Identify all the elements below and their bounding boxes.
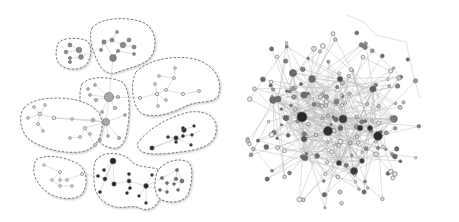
network-node	[286, 134, 290, 138]
network-node	[393, 127, 397, 131]
network-node	[348, 92, 351, 95]
community-hulls	[21, 19, 220, 210]
hull-right-lower-dark	[138, 112, 217, 154]
network-node	[366, 187, 368, 189]
network-node	[357, 125, 363, 131]
network-node	[340, 94, 343, 97]
network-node	[371, 120, 374, 123]
network-node	[370, 86, 376, 92]
network-node	[320, 43, 325, 48]
network-node	[327, 60, 330, 63]
network-node	[391, 176, 395, 180]
network-node	[394, 102, 397, 105]
network-node	[321, 117, 324, 120]
network-node	[302, 155, 308, 161]
network-node	[338, 72, 341, 75]
network-node	[338, 126, 343, 131]
network-node	[381, 197, 385, 201]
network-node	[349, 68, 353, 72]
network-node	[374, 132, 383, 141]
right-hairball-network	[246, 15, 421, 209]
network-node	[265, 177, 269, 181]
network-node	[271, 169, 274, 172]
network-node	[336, 85, 339, 88]
network-node	[285, 90, 288, 93]
network-node	[360, 159, 365, 164]
network-node	[283, 175, 287, 179]
network-node	[246, 139, 250, 143]
network-node	[285, 45, 288, 48]
network-node	[289, 69, 296, 76]
network-node	[320, 104, 323, 107]
network-node	[374, 152, 379, 157]
network-node	[348, 141, 352, 145]
hull-bottom-right	[155, 160, 192, 202]
network-node	[338, 190, 342, 194]
network-node	[391, 116, 398, 123]
network-node	[270, 47, 274, 51]
network-node	[325, 161, 328, 164]
network-node	[362, 190, 366, 194]
network-node	[309, 76, 316, 83]
network-node	[322, 180, 325, 183]
network-node	[324, 206, 326, 208]
network-node	[336, 175, 340, 179]
network-node	[402, 101, 405, 104]
network-node	[417, 125, 421, 129]
network-node	[358, 188, 361, 191]
network-node	[327, 141, 330, 144]
network-node	[276, 146, 280, 150]
network-node	[280, 108, 283, 111]
hull-top-left-small	[56, 38, 91, 69]
network-node	[276, 137, 279, 140]
network-node	[252, 87, 256, 91]
hull-right-upper	[133, 58, 220, 116]
network-node	[307, 57, 310, 60]
network-node	[301, 92, 307, 98]
network-node	[264, 145, 269, 150]
network-node	[340, 104, 343, 107]
network-node	[315, 154, 320, 159]
network-node	[316, 103, 319, 106]
network-node	[260, 77, 265, 82]
network-node	[333, 38, 337, 42]
network-node	[336, 160, 341, 165]
network-node	[394, 147, 399, 152]
network-node	[361, 151, 364, 154]
network-node	[361, 55, 365, 59]
network-node	[366, 102, 369, 105]
network-node	[305, 153, 308, 156]
network-node	[324, 100, 328, 104]
left-clustered-network	[21, 19, 220, 210]
network-node	[364, 180, 367, 183]
network-node	[326, 114, 329, 117]
network-node	[322, 192, 327, 197]
network-node	[271, 88, 274, 91]
network-node	[344, 102, 347, 105]
network-node	[399, 160, 402, 163]
network-node	[398, 105, 402, 109]
network-node	[351, 154, 353, 156]
network-node	[334, 117, 339, 122]
network-node	[331, 32, 335, 36]
network-node	[388, 84, 391, 87]
network-node	[288, 90, 291, 93]
network-node	[318, 95, 322, 99]
network-node	[314, 133, 317, 136]
network-node	[338, 139, 343, 144]
network-node	[282, 149, 286, 153]
network-node	[340, 201, 344, 205]
network-node	[377, 104, 381, 108]
network-node	[267, 120, 270, 123]
network-node	[344, 163, 348, 167]
network-node	[294, 108, 297, 111]
network-node	[280, 124, 282, 126]
network-node	[397, 76, 402, 81]
network-node	[275, 55, 279, 59]
network-node	[388, 69, 392, 73]
network-node	[256, 139, 259, 142]
network-node	[413, 79, 417, 83]
network-node	[367, 125, 372, 130]
network-node	[377, 121, 381, 125]
network-node	[284, 59, 288, 63]
